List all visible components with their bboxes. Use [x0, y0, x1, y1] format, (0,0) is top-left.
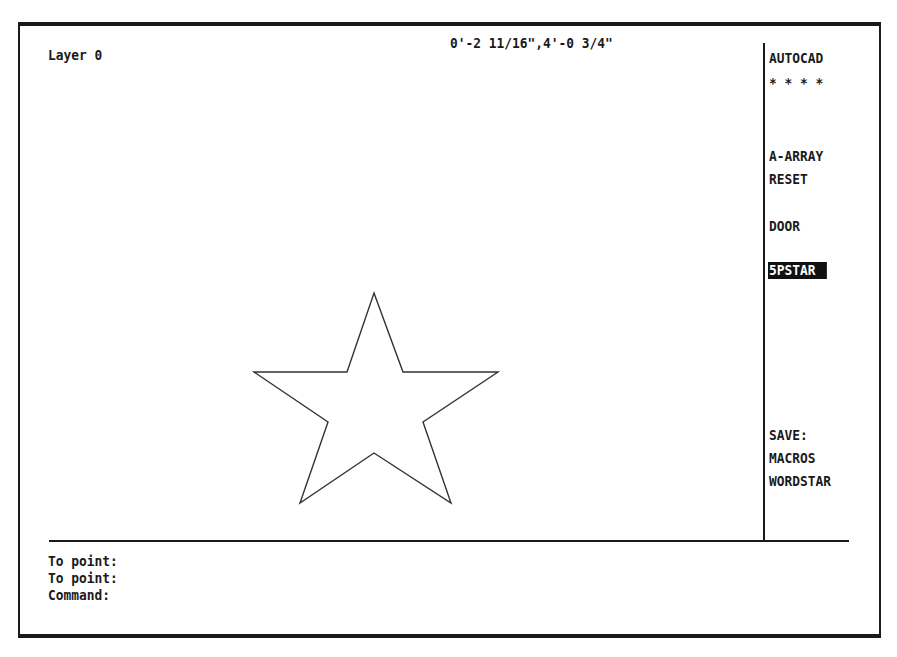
screen-menu-item-wordstar[interactable]: WORDSTAR	[768, 473, 833, 490]
screen-menu-item-save[interactable]: SAVE:	[768, 427, 810, 444]
screen-menu-item-reset[interactable]: RESET	[768, 171, 810, 188]
screen-menu-separator[interactable]: * * * *	[768, 75, 825, 92]
screen-menu-item-a-array[interactable]: A-ARRAY	[768, 148, 825, 165]
star-drawing	[0, 0, 897, 657]
screen-menu-item-macros[interactable]: MACROS	[768, 450, 817, 467]
command-prompt[interactable]: Command:	[48, 587, 110, 604]
screen-menu-title-autocad[interactable]: AUTOCAD	[768, 50, 825, 67]
command-history-line: To point:	[48, 570, 118, 587]
command-history-line: To point:	[48, 553, 118, 570]
screen-menu-item-door[interactable]: DOOR	[768, 218, 802, 235]
screen-menu-item-5pstar[interactable]: 5PSTAR	[768, 262, 826, 279]
five-point-star-shape[interactable]	[254, 293, 498, 503]
